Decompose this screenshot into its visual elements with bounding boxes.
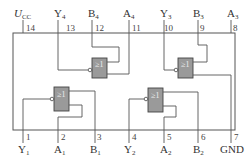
svg-text:Y2: Y2 (124, 143, 136, 157)
pin-num-2: 2 (61, 132, 66, 142)
bottom-pin-labels: Y1 A1 B1 Y2 A2 B2 GND (18, 143, 244, 157)
svg-text:UCC: UCC (14, 7, 32, 21)
pin-num-13: 13 (66, 23, 76, 33)
pin-num-1: 1 (26, 132, 31, 142)
svg-text:B1: B1 (90, 143, 101, 157)
svg-text:≥1: ≥1 (181, 60, 189, 69)
svg-text:A3: A3 (227, 7, 239, 21)
svg-text:≥1: ≥1 (57, 90, 65, 99)
nor-gate-4: ≥1 (58, 33, 129, 78)
svg-text:B2: B2 (193, 143, 204, 157)
pin-num-12: 12 (95, 23, 104, 33)
pin-num-5: 5 (167, 132, 172, 142)
svg-text:≥1: ≥1 (95, 60, 103, 69)
nor-gate-2: ≥1 (129, 88, 198, 130)
svg-text:B4: B4 (88, 7, 99, 21)
svg-text:Y3: Y3 (160, 7, 172, 21)
chip-diagram: 14 13 12 11 10 9 8 1 2 3 4 5 6 7 UCC Y4 … (0, 0, 249, 165)
svg-text:GND: GND (220, 143, 244, 155)
svg-text:A4: A4 (123, 7, 135, 21)
svg-text:A2: A2 (160, 143, 172, 157)
svg-text:A1: A1 (54, 143, 66, 157)
pin-num-6: 6 (201, 132, 206, 142)
bottom-pin-lines (23, 130, 231, 143)
svg-text:Y4: Y4 (54, 7, 66, 21)
nor-gate-3: ≥1 (164, 33, 231, 130)
pin-num-11: 11 (132, 23, 141, 33)
svg-text:≥1: ≥1 (151, 91, 159, 100)
chip-outline (13, 33, 235, 130)
svg-text:Y1: Y1 (18, 143, 30, 157)
pin-num-14: 14 (26, 23, 36, 33)
pin-num-9: 9 (200, 23, 205, 33)
pin-num-4: 4 (132, 132, 137, 142)
pin-num-3: 3 (97, 132, 102, 142)
nor-gate-1: ≥1 (23, 87, 95, 130)
pin-num-10: 10 (164, 23, 174, 33)
pin-num-7: 7 (234, 132, 239, 142)
pin-num-8: 8 (233, 23, 238, 33)
top-pin-labels: UCC Y4 B4 A4 Y3 B3 A3 (14, 7, 239, 21)
svg-text:B3: B3 (193, 7, 204, 21)
